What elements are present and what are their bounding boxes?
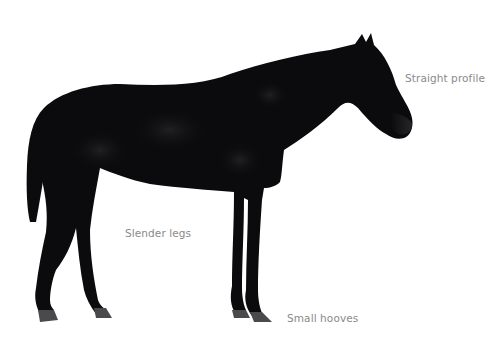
annotation-small-hooves: Small hooves: [287, 312, 358, 324]
horse-illustration: Straight profile Slender legs Small hoov…: [0, 0, 502, 344]
annotation-straight-profile: Straight profile: [405, 72, 485, 84]
horse-silhouette: [0, 0, 502, 344]
hoof-front-right: [250, 312, 272, 322]
hoof-rear-right: [94, 308, 112, 318]
hoof-rear-left: [38, 310, 58, 322]
body: [35, 33, 412, 316]
hoof-front-left: [232, 310, 250, 318]
annotation-slender-legs: Slender legs: [125, 227, 191, 239]
